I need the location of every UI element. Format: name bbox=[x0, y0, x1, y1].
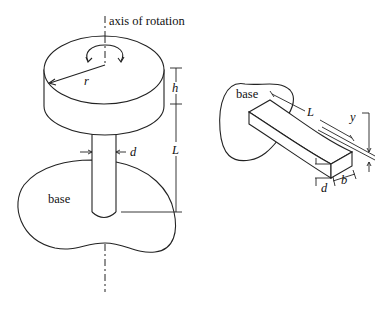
b-tick-left bbox=[333, 177, 335, 186]
base-label-right: base bbox=[236, 87, 259, 101]
b-label: b bbox=[341, 173, 347, 187]
L-tick-end bbox=[350, 135, 354, 141]
L-label-right: L bbox=[306, 105, 314, 119]
radius-label: r bbox=[84, 74, 89, 88]
disk-top bbox=[44, 36, 164, 104]
axis-of-rotation-label: axis of rotation bbox=[109, 14, 185, 28]
h-label: h bbox=[172, 81, 178, 95]
y-label: y bbox=[348, 110, 356, 124]
d-label-right: d bbox=[321, 181, 328, 195]
right-diagram: L y d b base bbox=[220, 84, 375, 195]
L-label-left: L bbox=[171, 143, 179, 157]
d-label-left: d bbox=[130, 145, 137, 159]
base-label-left: base bbox=[48, 192, 71, 206]
figure-canvas: r h L d axis of rotation base bbox=[0, 0, 389, 310]
left-diagram: r h L d axis of rotation base bbox=[18, 14, 186, 292]
